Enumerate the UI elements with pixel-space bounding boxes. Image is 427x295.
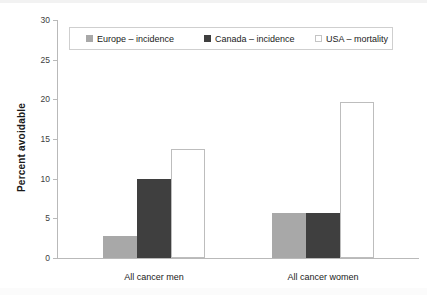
plot-area: 0 5 10 15 20 25 30 <box>57 20 419 258</box>
legend-swatch-usa-icon <box>315 35 322 42</box>
x-axis-line <box>57 258 419 259</box>
x-axis-label-men: All cancer men <box>124 272 184 282</box>
y-axis-line <box>57 20 58 259</box>
y-tick-label-10: 10 <box>41 174 50 184</box>
legend-label-canada: Canada – incidence <box>215 34 295 44</box>
y-tick-label-15: 15 <box>41 134 50 144</box>
scan-bottom-smudge <box>0 288 427 295</box>
bar-women-usa <box>340 102 374 258</box>
legend-label-europe: Europe – incidence <box>97 34 174 44</box>
y-axis-title: Percent avoidable <box>16 83 27 213</box>
bar-women-europe <box>272 213 306 258</box>
legend-label-usa: USA – mortality <box>326 34 388 44</box>
legend-item-usa: USA – mortality <box>315 34 388 44</box>
legend-swatch-europe-icon <box>86 35 93 42</box>
bar-women-canada <box>306 213 340 258</box>
y-tick-label-0: 0 <box>45 253 50 263</box>
y-tick-label-5: 5 <box>45 213 50 223</box>
bar-men-europe <box>103 236 137 258</box>
legend: Europe – incidence Canada – incidence US… <box>69 27 393 50</box>
bar-men-usa <box>171 149 205 259</box>
y-tick-label-30: 30 <box>41 15 50 25</box>
legend-item-canada: Canada – incidence <box>204 34 295 44</box>
x-axis-label-women: All cancer women <box>287 272 358 282</box>
legend-swatch-canada-icon <box>204 35 211 42</box>
bar-men-canada <box>137 179 171 258</box>
y-tick-label-25: 25 <box>41 55 50 65</box>
bar-chart: Percent avoidable 0 5 10 15 20 25 <box>0 0 427 295</box>
y-tick-label-20: 20 <box>41 94 50 104</box>
legend-item-europe: Europe – incidence <box>86 34 174 44</box>
